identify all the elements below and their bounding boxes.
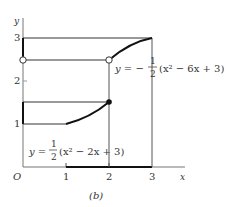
eq-lower-rhs: (x² − 2x + 3) [59, 146, 124, 157]
figure-caption: (b) [89, 190, 103, 201]
curve-upper [109, 38, 152, 60]
eq-upper-rhs: (x² − 6x + 3) [159, 63, 224, 74]
eq-lower-lhs: y = [28, 146, 46, 157]
origin-label: O [13, 171, 21, 182]
eq-lower-den: 2 [51, 152, 57, 162]
y-tick-label-3: 3 [14, 32, 20, 43]
x-axis-label: x [180, 172, 185, 182]
eq-lower-num: 1 [51, 139, 57, 149]
open-point-left [20, 57, 26, 63]
y-tick-label-2: 2 [14, 75, 20, 86]
eq-upper-den: 2 [150, 69, 156, 79]
x-tick-label-1: 1 [63, 171, 69, 182]
x-tick-label-3: 3 [149, 171, 155, 182]
y-tick-label-1: 1 [14, 118, 20, 129]
eq-upper-lhs: y = − [114, 63, 144, 74]
closed-point [106, 99, 112, 105]
y-axis-label: y [13, 16, 20, 26]
curve-lower [66, 102, 109, 124]
open-point-right [106, 57, 112, 63]
x-tick-label-2: 2 [106, 171, 112, 182]
diagram-canvas: y 3 2 1 O 1 2 3 x y = − 1 2 (x² − 6x + 3… [0, 0, 230, 207]
eq-upper-num: 1 [150, 56, 156, 66]
